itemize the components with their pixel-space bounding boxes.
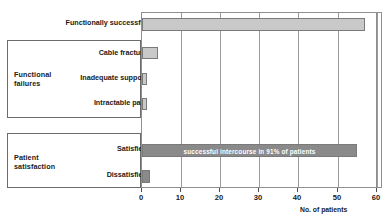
tick-label-10: 10 [168,193,192,202]
tick-label-60: 60 [364,193,388,202]
tick-label-30: 30 [246,193,270,202]
gridline-10 [181,13,182,187]
tick-label-20: 20 [207,193,231,202]
gridline-50 [338,13,339,187]
tick-mark-40 [297,188,298,192]
tick-mark-0 [141,188,142,192]
bar-functionally-successful[interactable] [142,18,365,31]
tick-label-0: 0 [129,193,153,202]
gridline-30 [259,13,260,187]
tick-mark-10 [180,188,181,192]
tick-mark-60 [376,188,377,192]
bar-inadequate-support[interactable] [142,73,147,85]
tick-mark-50 [337,188,338,192]
tick-label-50: 50 [325,193,349,202]
bar-chart: Functional failures Patient satisfaction… [0,0,391,222]
x-axis-title: No. of patients [300,206,347,213]
group-label-functional-failures: Functional failures [14,70,51,88]
group-label-patient-satisfaction: Patient satisfaction [14,153,55,171]
gridline-40 [298,13,299,187]
gridline-60 [377,13,378,187]
bar-dissatisfied[interactable] [142,170,150,183]
tick-mark-30 [258,188,259,192]
bar-annotation-satisfied: successful intercourse in 91% of patient… [143,147,356,154]
bar-satisfied[interactable]: successful intercourse in 91% of patient… [142,144,357,157]
category-label-inadequate-support: Inadequate support [80,73,147,82]
bar-cable-fracture[interactable] [142,47,158,59]
tick-label-40: 40 [285,193,309,202]
category-label-intractable-pain: Intractable pain [94,98,147,107]
tick-mark-20 [219,188,220,192]
plot-area: successful intercourse in 91% of patient… [141,12,377,188]
category-label-functionally-successful: Functionally successful [66,18,147,27]
gridline-20 [220,13,221,187]
bar-intractable-pain[interactable] [142,98,147,110]
category-label-cable-fracture: Cable fracture [99,48,147,57]
